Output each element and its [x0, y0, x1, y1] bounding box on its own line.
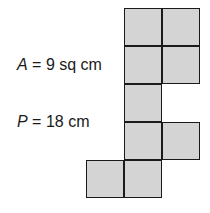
unit-square: [162, 8, 200, 46]
unit-square: [124, 160, 162, 198]
unit-square: [162, 122, 200, 160]
unit-square: [124, 122, 162, 160]
area-label: A = 9 sq cm: [17, 56, 102, 74]
unit-square: [124, 46, 162, 84]
unit-square: [124, 8, 162, 46]
perimeter-value: = 18 cm: [28, 113, 90, 130]
area-variable: A: [17, 56, 28, 73]
perimeter-label: P = 18 cm: [17, 113, 89, 131]
unit-square: [124, 84, 162, 122]
perimeter-variable: P: [17, 113, 28, 130]
area-value: = 9 sq cm: [28, 56, 102, 73]
unit-square: [86, 160, 124, 198]
unit-square: [162, 46, 200, 84]
